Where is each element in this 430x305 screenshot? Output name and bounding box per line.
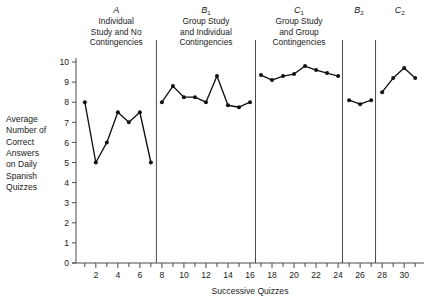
data-point [182,95,186,99]
x-tick-label: 16 [245,270,255,280]
x-tick-label: 12 [201,270,211,280]
data-point [336,74,340,78]
data-point [369,98,373,102]
data-point [303,64,307,68]
x-axis-title-group: Successive Quizzes [212,286,289,296]
data-point [94,161,98,165]
data-point [413,76,417,80]
phase-description-line: Individual [99,16,135,26]
data-point [402,66,406,70]
data-point [380,90,384,94]
y-tick-label: 8 [64,97,69,107]
data-point [270,78,274,82]
phase-description-line: and Group [279,27,319,37]
x-tick-label: 14 [223,270,233,280]
phase-label-A: A [112,5,119,15]
x-tick-label: 6 [137,270,142,280]
data-point [193,95,197,99]
data-point [160,100,164,104]
y-axis-title-line: Correct [6,137,35,147]
y-axis-title-line: Spanish [6,171,37,181]
data-point [314,68,318,72]
y-axis-title-line: Answers [6,148,39,158]
data-point [171,84,175,88]
data-point [149,161,153,165]
data-point [292,72,296,76]
y-tick-label: 9 [64,77,69,87]
x-tick-label: 20 [289,270,299,280]
data-point [105,140,109,144]
data-point [116,110,120,114]
x-tick-label: 26 [355,270,365,280]
y-tick-label: 2 [64,218,69,228]
y-tick-label: 6 [64,138,69,148]
y-tick-label: 4 [64,178,69,188]
data-point [226,103,230,107]
x-tick-label: 30 [399,270,409,280]
phase-description-line: Group Study [275,16,323,26]
data-point [358,102,362,106]
phase-description-line: Study and No [91,27,142,37]
data-point [138,110,142,114]
x-tick-label: 2 [93,270,98,280]
data-point [259,73,263,77]
y-tick-label: 3 [64,198,69,208]
y-tick-label: 5 [64,158,69,168]
data-point [204,100,208,104]
data-point [127,120,131,124]
single-subject-line-chart: AverageNumber ofCorrectAnswerson DailySp… [0,0,430,305]
phase-description-line: and Individual [180,27,232,37]
y-axis-title-line: Average [6,114,38,124]
data-point [281,74,285,78]
data-point [391,76,395,80]
y-tick-label: 0 [64,258,69,268]
x-tick-label: 4 [115,270,120,280]
data-point [347,98,351,102]
x-tick-label: 24 [333,270,343,280]
x-axis-title: Successive Quizzes [212,286,289,296]
phase-description-line: Group Study [182,16,230,26]
y-tick-label: 1 [64,238,69,248]
data-point [248,100,252,104]
y-tick-label: 10 [59,57,69,67]
phase-description-line: Contingencies [272,37,325,47]
data-point [237,105,241,109]
phase-description-line: Contingencies [179,37,232,47]
y-tick-label: 7 [64,118,69,128]
y-axis-title-line: Number of [6,125,47,135]
phase-description-line: Contingencies [90,37,143,47]
x-tick-label: 10 [179,270,189,280]
x-tick-label: 22 [311,270,321,280]
y-axis-title-line: on Daily [6,159,38,169]
data-point [83,100,87,104]
chart-container: AverageNumber ofCorrectAnswerson DailySp… [0,0,430,305]
data-point [325,71,329,75]
x-tick-label: 18 [267,270,277,280]
x-tick-label: 28 [377,270,387,280]
data-point [215,74,219,78]
y-axis-title-line: Quizzes [6,182,37,192]
x-tick-label: 8 [160,270,165,280]
